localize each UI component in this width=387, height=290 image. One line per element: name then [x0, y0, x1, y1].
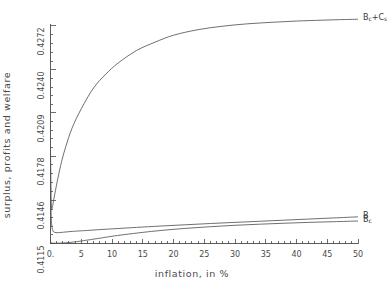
x-tick-label: 30: [223, 250, 247, 259]
x-axis-title: inflation, in %: [0, 268, 384, 279]
y-tick-label: 0.4115: [36, 242, 45, 276]
x-tick-label: 40: [285, 250, 309, 259]
x-tick-label: 5: [69, 250, 93, 259]
y-tick-label: 0.4146: [36, 199, 45, 233]
x-tick-label: 15: [131, 250, 155, 259]
x-tick-label: 0.: [39, 250, 63, 259]
x-tick-label: 25: [192, 250, 216, 259]
y-tick-label: 0.4272: [36, 24, 45, 58]
data-curves: [51, 19, 359, 243]
y-tick-label: 0.4240: [36, 68, 45, 102]
tick-marks: [51, 26, 359, 244]
y-tick-label: 0.4209: [36, 111, 45, 145]
axes: [51, 24, 359, 244]
series-label-Bc+Cs: Bc+Cs: [363, 13, 387, 22]
x-tick-label: 10: [100, 250, 124, 259]
y-tick-label: 0.4178: [36, 155, 45, 189]
curve-B: [51, 153, 359, 232]
series-label-Bc: Bc: [363, 215, 372, 224]
x-tick-label: 35: [254, 250, 278, 259]
curve-Bc+Cs: [51, 19, 359, 209]
y-axis-title: surplus, profits and welfare: [0, 0, 14, 290]
x-tick-label: 45: [315, 250, 339, 259]
x-tick-label: 20: [162, 250, 186, 259]
x-tick-label: 50: [346, 250, 370, 259]
